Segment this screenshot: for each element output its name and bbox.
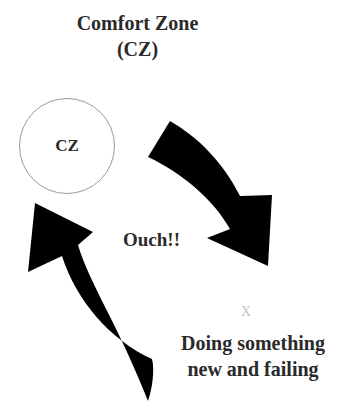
failing-label-line-1: Doing something bbox=[160, 330, 346, 356]
ouch-label: Ouch!! bbox=[114, 229, 189, 251]
title-line-1: Comfort Zone bbox=[0, 10, 275, 36]
failing-label-line-2: new and failing bbox=[160, 356, 346, 382]
title-line-2: (CZ) bbox=[0, 36, 275, 62]
x-mark-icon: X bbox=[238, 304, 254, 320]
comfort-zone-label: CZ bbox=[19, 98, 115, 194]
